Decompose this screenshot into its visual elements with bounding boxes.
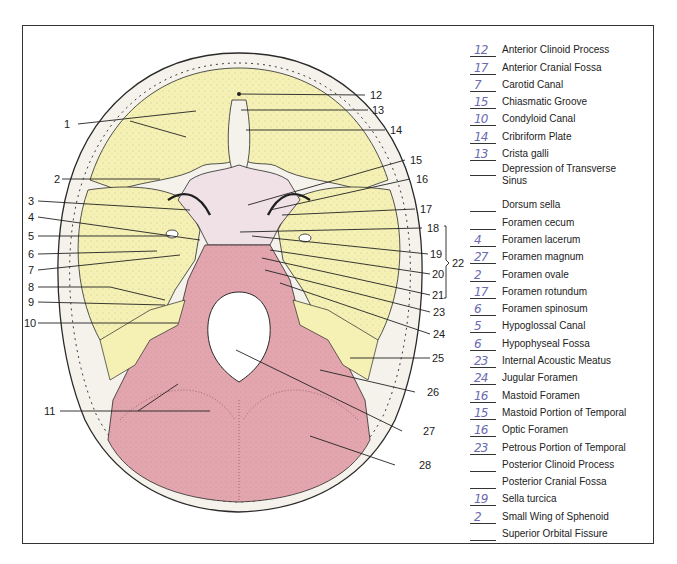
- label-24: 24: [433, 328, 445, 340]
- legend-term: Small Wing of Sphenoid: [502, 511, 609, 524]
- answer-blank[interactable]: 12: [470, 42, 496, 57]
- legend-item: 17Foramen rotundum: [470, 282, 650, 299]
- legend-item: 2Small Wing of Sphenoid: [470, 506, 650, 523]
- label-5: 5: [28, 230, 34, 242]
- answer-blank[interactable]: 2: [470, 267, 496, 282]
- answer-blank[interactable]: 27: [470, 249, 496, 264]
- legend-item: Foramen cecum: [470, 212, 650, 229]
- handwritten-answer: 2: [474, 510, 481, 524]
- handwritten-answer: 23: [474, 441, 487, 455]
- answer-blank[interactable]: 10: [470, 111, 496, 126]
- answer-blank[interactable]: 4: [470, 232, 496, 247]
- label-9: 9: [28, 296, 34, 308]
- legend-item: 23Internal Acoustic Meatus: [470, 351, 650, 368]
- answer-blank[interactable]: [470, 163, 496, 176]
- label-23: 23: [433, 306, 445, 318]
- legend-item: 24Jugular Foramen: [470, 368, 650, 385]
- handwritten-answer: 6: [474, 337, 481, 351]
- handwritten-answer: 10: [474, 112, 487, 126]
- legend-item: Dorsum sella: [470, 195, 650, 212]
- label-2: 2: [54, 173, 60, 185]
- legend-item: 4Foramen lacerum: [470, 230, 650, 247]
- label-8: 8: [28, 281, 34, 293]
- legend-term: Posterior Clinoid Process: [502, 459, 614, 472]
- handwritten-answer: 23: [474, 354, 487, 368]
- legend-item: 6Hypophyseal Fossa: [470, 333, 650, 350]
- legend-item: 23Petrous Portion of Temporal: [470, 437, 650, 454]
- answer-blank[interactable]: [470, 457, 496, 472]
- label-7: 7: [28, 264, 34, 276]
- legend-item: 27Foramen magnum: [470, 247, 650, 264]
- legend-term: Mastoid Portion of Temporal: [502, 407, 626, 420]
- answer-blank[interactable]: [470, 197, 496, 212]
- legend-item: 13Crista galli: [470, 144, 650, 161]
- handwritten-answer: 19: [474, 492, 487, 506]
- answer-blank[interactable]: 2: [470, 509, 496, 524]
- cribriform-plate: [228, 100, 250, 170]
- answer-blank[interactable]: 15: [470, 94, 496, 109]
- legend-item: 14Cribriform Plate: [470, 126, 650, 143]
- answer-blank[interactable]: 15: [470, 405, 496, 420]
- answer-blank[interactable]: 24: [470, 370, 496, 385]
- legend-term: Internal Acoustic Meatus: [502, 355, 611, 368]
- legend-term: Foramen cecum: [502, 217, 574, 230]
- legend-term: Condyloid Canal: [502, 113, 575, 126]
- label-13: 13: [372, 104, 384, 116]
- answer-blank[interactable]: 7: [470, 77, 496, 92]
- label-20: 20: [432, 268, 444, 280]
- answer-blank[interactable]: 6: [470, 336, 496, 351]
- legend-term: Hypophyseal Fossa: [502, 338, 590, 351]
- handwritten-answer: 6: [474, 302, 481, 316]
- legend-item: Posterior Clinoid Process: [470, 455, 650, 472]
- label-3: 3: [28, 195, 34, 207]
- handwritten-answer: 2: [474, 268, 481, 282]
- answer-blank[interactable]: 19: [470, 491, 496, 506]
- answer-blank[interactable]: [470, 526, 496, 541]
- legend-term: Superior Orbital Fissure: [502, 528, 608, 541]
- handwritten-answer: 16: [474, 423, 487, 437]
- answer-blank[interactable]: 23: [470, 353, 496, 368]
- label-4: 4: [28, 211, 34, 223]
- legend-term: Anterior Cranial Fossa: [502, 62, 601, 75]
- legend-term: Crista galli: [502, 148, 549, 161]
- answer-blank[interactable]: [470, 215, 496, 230]
- handwritten-answer: 5: [474, 319, 481, 333]
- legend-term: Hypoglossal Canal: [502, 320, 585, 333]
- legend-term: Sella turcica: [502, 493, 556, 506]
- legend-term: Optic Foramen: [502, 424, 568, 437]
- answer-blank[interactable]: [470, 474, 496, 489]
- legend-term: Dorsum sella: [502, 199, 560, 212]
- answer-blank[interactable]: 6: [470, 301, 496, 316]
- handwritten-answer: 16: [474, 389, 487, 403]
- answer-blank[interactable]: 5: [470, 318, 496, 333]
- legend-item: 12Anterior Clinoid Process: [470, 40, 650, 57]
- answer-blank[interactable]: 16: [470, 388, 496, 403]
- legend-item: 5Hypoglossal Canal: [470, 316, 650, 333]
- label-22: 22: [452, 257, 464, 269]
- answer-blank[interactable]: 17: [470, 284, 496, 299]
- legend-term: Foramen ovale: [502, 269, 569, 282]
- label-6: 6: [28, 248, 34, 260]
- label-25: 25: [432, 352, 444, 364]
- legend-item: 6Foramen spinosum: [470, 299, 650, 316]
- answer-blank[interactable]: 13: [470, 146, 496, 161]
- legend-item: 19Sella turcica: [470, 489, 650, 506]
- legend-item: 16Optic Foramen: [470, 420, 650, 437]
- answer-blank[interactable]: 23: [470, 440, 496, 455]
- answer-blank[interactable]: 16: [470, 422, 496, 437]
- legend-term: Foramen magnum: [502, 251, 584, 264]
- answer-legend: 12Anterior Clinoid Process 17Anterior Cr…: [470, 40, 650, 541]
- label-16: 16: [416, 173, 428, 185]
- legend-item: 7Carotid Canal: [470, 75, 650, 92]
- legend-term: Foramen spinosum: [502, 303, 588, 316]
- answer-blank[interactable]: 14: [470, 129, 496, 144]
- answer-blank[interactable]: 17: [470, 60, 496, 75]
- legend-term: Anterior Clinoid Process: [502, 44, 609, 57]
- label-1: 1: [64, 118, 70, 130]
- handwritten-answer: 12: [474, 43, 487, 57]
- legend-item: Superior Orbital Fissure: [470, 524, 650, 541]
- label-14: 14: [390, 124, 402, 136]
- legend-term: Foramen rotundum: [502, 286, 587, 299]
- label-15: 15: [410, 154, 422, 166]
- legend-term: Chiasmatic Groove: [502, 96, 587, 109]
